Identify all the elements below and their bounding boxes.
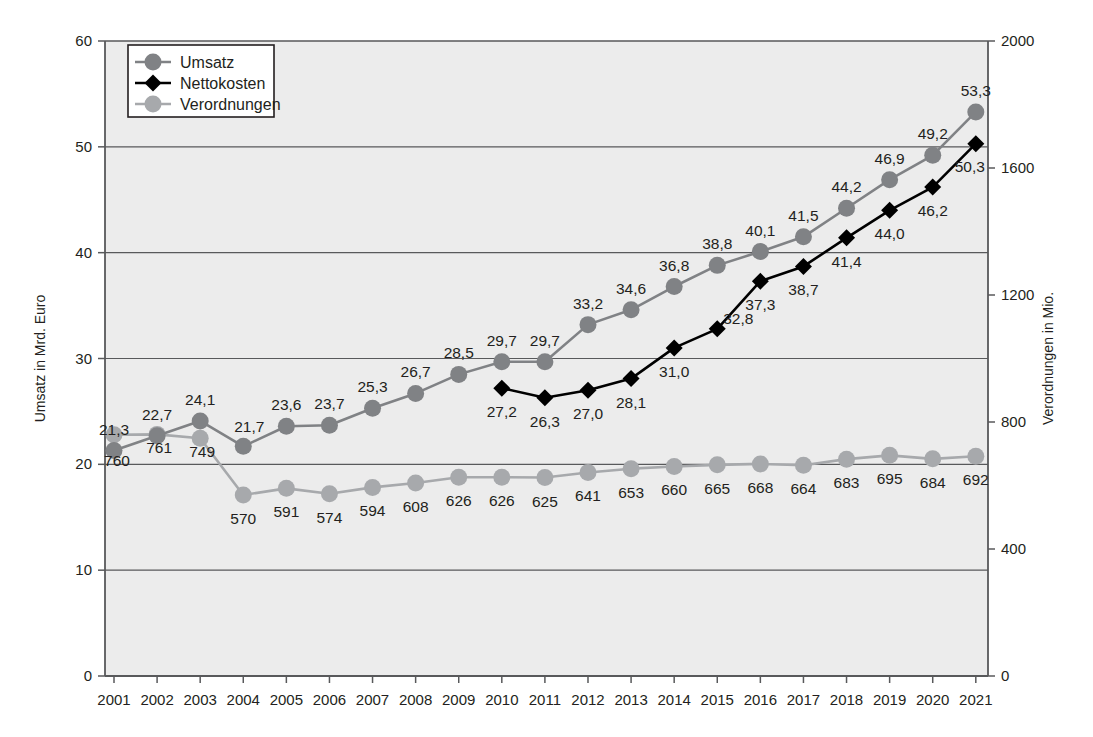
data-label-nettokosten-2013: 28,1: [616, 394, 646, 411]
data-label-verordnungen-2010: 626: [489, 492, 515, 509]
x-axis-tick-label: 2016: [744, 691, 777, 708]
data-point-verordnungen-2021: [967, 448, 984, 465]
x-axis-tick-label: 2018: [830, 691, 863, 708]
y2-axis-title: Verordnungen in Mio.: [1040, 292, 1056, 425]
data-label-umsatz-2002: 22,7: [142, 406, 172, 423]
x-axis-tick-label: 2015: [701, 691, 734, 708]
data-point-verordnungen-2017: [795, 457, 812, 474]
x-axis-tick-label: 2020: [916, 691, 949, 708]
data-label-verordnungen-2004: 570: [230, 510, 256, 527]
data-label-umsatz-2020: 49,2: [918, 125, 948, 142]
data-label-umsatz-2005: 23,6: [271, 396, 301, 413]
data-label-umsatz-2004: 21,7: [234, 418, 264, 435]
data-label-umsatz-2021: 53,3: [961, 82, 991, 99]
y-axis-tick-label: 20: [75, 455, 92, 472]
data-label-verordnungen-2011: 625: [532, 493, 558, 510]
data-label-verordnungen-2016: 668: [747, 479, 773, 496]
y2-axis-tick-label: 400: [1001, 540, 1026, 557]
data-point-verordnungen-2012: [579, 464, 596, 481]
data-point-umsatz-2005: [278, 418, 295, 435]
data-label-umsatz-2017: 41,5: [788, 207, 818, 224]
data-label-umsatz-2018: 44,2: [831, 178, 861, 195]
data-label-verordnungen-2013: 653: [618, 484, 644, 501]
data-label-nettokosten-2021: 50,3: [955, 158, 985, 175]
data-label-verordnungen-2019: 695: [877, 470, 903, 487]
data-label-verordnungen-2020: 684: [920, 474, 946, 491]
data-label-umsatz-2008: 26,7: [401, 363, 431, 380]
x-axis-tick-label: 2008: [399, 691, 432, 708]
x-axis-tick-label: 2002: [140, 691, 173, 708]
y-axis-tick-label: 40: [75, 244, 92, 261]
legend-marker-verordnungen: [145, 96, 162, 113]
data-label-umsatz-2007: 25,3: [357, 378, 387, 395]
legend-marker-umsatz: [145, 54, 162, 71]
data-point-verordnungen-2010: [493, 469, 510, 486]
data-point-umsatz-2007: [364, 400, 381, 417]
data-label-umsatz-2006: 23,7: [314, 395, 344, 412]
data-label-umsatz-2013: 34,6: [616, 280, 646, 297]
x-axis-tick-label: 2006: [313, 691, 346, 708]
data-point-umsatz-2009: [450, 366, 467, 383]
data-label-verordnungen-2008: 608: [403, 498, 429, 515]
data-point-umsatz-2004: [235, 438, 252, 455]
y2-axis-tick-label: 800: [1001, 413, 1026, 430]
data-label-nettokosten-2016: 37,3: [745, 296, 775, 313]
y-axis-title: Umsatz in Mrd. Euro: [32, 294, 48, 422]
data-point-umsatz-2015: [709, 257, 726, 274]
data-label-umsatz-2009: 28,5: [444, 344, 474, 361]
y2-axis-tick-label: 1200: [1001, 286, 1034, 303]
data-point-umsatz-2018: [838, 200, 855, 217]
data-label-verordnungen-2015: 665: [704, 480, 730, 497]
data-point-umsatz-2010: [493, 353, 510, 370]
data-label-umsatz-2019: 46,9: [875, 150, 905, 167]
x-axis-tick-label: 2001: [97, 691, 130, 708]
data-label-nettokosten-2014: 31,0: [659, 363, 690, 380]
data-point-umsatz-2006: [321, 417, 338, 434]
data-point-verordnungen-2020: [924, 450, 941, 467]
data-point-verordnungen-2015: [709, 456, 726, 473]
data-label-nettokosten-2010: 27,2: [487, 403, 517, 420]
data-label-umsatz-2011: 29,7: [530, 332, 560, 349]
x-axis-tick-label: 2014: [657, 691, 690, 708]
data-label-verordnungen-2001: 760: [104, 452, 130, 469]
data-point-umsatz-2017: [795, 228, 812, 245]
data-point-umsatz-2020: [924, 147, 941, 164]
data-label-umsatz-2001: 21,3: [99, 421, 129, 438]
data-label-verordnungen-2005: 591: [273, 503, 299, 520]
y-axis-tick-label: 60: [75, 32, 92, 49]
data-label-nettokosten-2012: 27,0: [573, 405, 604, 422]
x-axis-tick-label: 2010: [485, 691, 518, 708]
data-point-verordnungen-2018: [838, 451, 855, 468]
y2-axis-tick-label: 0: [1001, 667, 1009, 684]
y-axis-tick-label: 0: [84, 667, 92, 684]
data-point-umsatz-2021: [967, 103, 984, 120]
data-point-verordnungen-2006: [321, 485, 338, 502]
x-axis-tick-label: 2021: [959, 691, 992, 708]
legend-label-verordnungen: Verordnungen: [180, 96, 281, 113]
data-point-umsatz-2012: [579, 316, 596, 333]
data-label-umsatz-2003: 24,1: [185, 391, 215, 408]
data-point-umsatz-2013: [623, 301, 640, 318]
data-point-verordnungen-2014: [666, 458, 683, 475]
y2-axis-tick-label: 1600: [1001, 159, 1034, 176]
data-label-umsatz-2016: 40,1: [745, 222, 775, 239]
data-label-umsatz-2012: 33,2: [573, 295, 603, 312]
x-axis-tick-label: 2005: [270, 691, 303, 708]
x-axis-tick-label: 2012: [571, 691, 604, 708]
x-axis-tick-label: 2004: [227, 691, 260, 708]
chart-container: 0102030405060040080012001600200020012002…: [0, 0, 1093, 737]
data-point-umsatz-2016: [752, 243, 769, 260]
x-axis-tick-label: 2011: [529, 691, 561, 708]
data-label-verordnungen-2007: 594: [360, 502, 386, 519]
x-axis-tick-label: 2019: [873, 691, 906, 708]
line-chart: 0102030405060040080012001600200020012002…: [0, 0, 1093, 737]
data-point-verordnungen-2013: [623, 460, 640, 477]
data-label-umsatz-2014: 36,8: [659, 257, 689, 274]
y2-axis-tick-label: 2000: [1001, 32, 1034, 49]
data-point-umsatz-2019: [881, 171, 898, 188]
data-label-nettokosten-2020: 46,2: [918, 202, 948, 219]
data-point-umsatz-2011: [536, 353, 553, 370]
data-label-verordnungen-2017: 664: [791, 480, 817, 497]
data-point-verordnungen-2019: [881, 447, 898, 464]
legend-label-umsatz: Umsatz: [180, 54, 234, 71]
